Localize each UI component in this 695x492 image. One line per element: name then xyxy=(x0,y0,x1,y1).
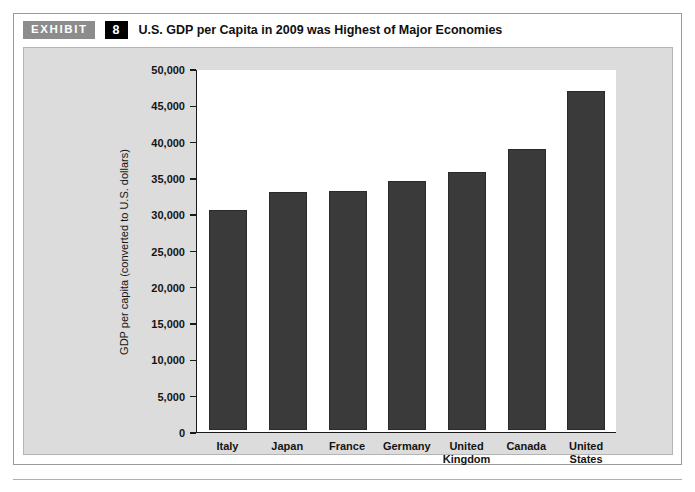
x-axis-label: France xyxy=(317,440,377,466)
y-axis-tick-label: 40,000 xyxy=(151,137,190,149)
y-axis-tick-label: 25,000 xyxy=(151,246,190,258)
y-axis-tick-label: 45,000 xyxy=(151,100,190,112)
y-axis-tick: 10,000 xyxy=(151,354,196,366)
y-axis-tick: 45,000 xyxy=(151,100,196,112)
x-axis-label: Germany xyxy=(377,440,437,466)
y-axis-tick: 50,000 xyxy=(151,64,196,76)
y-axis-tick-label: 15,000 xyxy=(151,318,190,330)
bar-slot xyxy=(199,70,259,430)
x-axis-label: Canada xyxy=(496,440,556,466)
bar-slot xyxy=(318,70,378,430)
bar xyxy=(508,149,546,431)
y-axis-tick-mark xyxy=(190,142,196,143)
y-axis-tick-label: 5,000 xyxy=(157,391,190,403)
x-axis-labels: ItalyJapanFranceGermanyUnitedKingdomCana… xyxy=(198,433,616,466)
y-axis-tick: 15,000 xyxy=(151,318,196,330)
exhibit-header: EXHIBIT 8 U.S. GDP per Capita in 2009 wa… xyxy=(14,14,681,46)
bar xyxy=(329,191,367,431)
y-axis-tick-label: 35,000 xyxy=(151,173,190,185)
y-axis-tick-mark xyxy=(190,69,196,70)
y-axis-title: GDP per capita (converted to U.S. dollar… xyxy=(118,102,130,402)
y-axis-tick-mark xyxy=(190,323,196,324)
y-axis-tick-mark xyxy=(190,396,196,397)
y-axis-tick-label: 30,000 xyxy=(151,209,190,221)
y-axis-tick-mark xyxy=(190,106,196,107)
chart-panel: GDP per capita (converted to U.S. dollar… xyxy=(23,47,673,455)
y-axis-tick: 20,000 xyxy=(151,282,196,294)
exhibit-number-badge: 8 xyxy=(105,21,128,40)
bar xyxy=(269,192,307,430)
exhibit-tag-label: EXHIBIT xyxy=(23,21,95,39)
y-axis-tick: 35,000 xyxy=(151,173,196,185)
page-bottom-rule xyxy=(13,479,682,480)
y-axis-tick: 0 xyxy=(179,427,196,439)
bar xyxy=(567,91,605,431)
exhibit-container: EXHIBIT 8 U.S. GDP per Capita in 2009 wa… xyxy=(13,13,682,465)
x-axis-label: UnitedStates xyxy=(556,440,616,466)
y-axis-tick-mark xyxy=(190,360,196,361)
bar xyxy=(448,172,486,430)
plot-wrapper: GDP per capita (converted to U.S. dollar… xyxy=(196,70,616,433)
x-axis-label: UnitedKingdom xyxy=(437,440,497,466)
bar-slot xyxy=(437,70,497,430)
bar-slot xyxy=(258,70,318,430)
y-axis-tick: 25,000 xyxy=(151,246,196,258)
y-axis-tick-label: 0 xyxy=(179,427,190,439)
bar xyxy=(388,181,426,430)
y-axis-tick-mark xyxy=(190,214,196,215)
x-axis-label: Italy xyxy=(198,440,258,466)
y-axis-tick: 30,000 xyxy=(151,209,196,221)
y-axis-tick-label: 10,000 xyxy=(151,354,190,366)
y-axis-tick-label: 20,000 xyxy=(151,282,190,294)
y-axis-tick: 40,000 xyxy=(151,137,196,149)
bar-slot xyxy=(497,70,557,430)
y-axis-tick: 5,000 xyxy=(157,391,196,403)
y-axis-tick-mark xyxy=(190,432,196,433)
bar-series xyxy=(199,70,616,430)
y-axis-tick-mark xyxy=(190,251,196,252)
y-axis-tick-mark xyxy=(190,178,196,179)
y-axis-tick-label: 50,000 xyxy=(151,64,190,76)
plot-area xyxy=(196,70,616,433)
x-axis-label: Japan xyxy=(257,440,317,466)
bar-slot xyxy=(556,70,616,430)
y-axis-tick-mark xyxy=(190,287,196,288)
exhibit-title: U.S. GDP per Capita in 2009 was Highest … xyxy=(139,23,503,37)
bar xyxy=(209,210,247,431)
bar-slot xyxy=(377,70,437,430)
